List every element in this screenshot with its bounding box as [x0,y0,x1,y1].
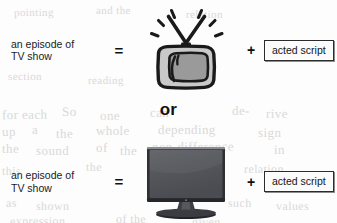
flatscreen-power-indicator-icon [185,199,187,201]
lcd-row-left-label-line1: an episode of [11,169,104,182]
flatscreen-television-icon [138,143,234,221]
crt-antenna-sparkle-right [199,11,223,37]
crt-television-icon [140,4,232,96]
crt-row-plus-sign: + [238,42,264,58]
lcd-row-plus-sign: + [238,174,264,190]
lcd-row-acted-script-box: acted script [264,171,334,192]
crt-row-left-label-line1: an episode of [11,38,104,51]
crt-row-left-label-line2: TV show [11,50,104,63]
flatscreen-bezel-top-highlight [147,147,225,149]
equation-row-lcd: an episode of TV show = [0,140,337,223]
lcd-row-left-label-line2: TV show [11,182,104,195]
lcd-row-equals-sign: = [104,173,134,190]
crt-television-slot [134,4,238,96]
crt-antenna-rods [169,17,205,44]
flatscreen-television-slot [134,143,238,221]
crt-row-left-label: an episode of TV show [0,38,104,63]
lcd-row-left-label: an episode of TV show [0,169,104,194]
equation-row-crt: an episode of TV show = [0,4,337,96]
diagram-canvas: an episode of TV show = [0,0,337,223]
flatscreen-stand-neck-highlight [182,201,191,210]
crt-row-acted-script-box: acted script [264,40,334,61]
crt-screen-glare-short [177,56,178,65]
crt-row-equals-sign: = [104,42,134,59]
or-divider-label: or [0,100,337,120]
